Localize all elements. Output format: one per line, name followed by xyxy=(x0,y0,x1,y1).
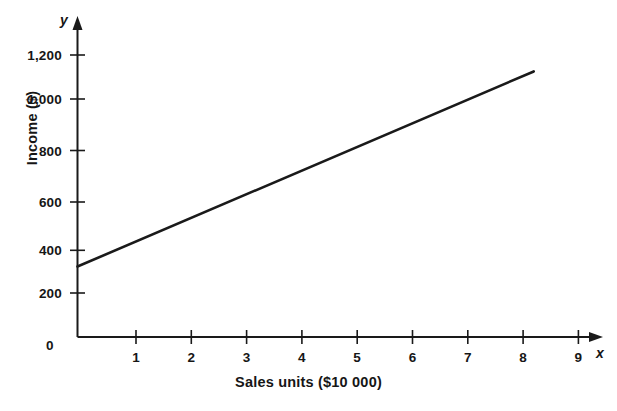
x-axis-arrow-icon xyxy=(589,332,603,342)
y-tick-label-400: 400 xyxy=(0,243,62,258)
x-tick-label-7: 7 xyxy=(464,350,472,365)
x-tick-label-2: 2 xyxy=(187,350,195,365)
y-tick-label-200: 200 xyxy=(0,286,62,301)
y-axis xyxy=(73,16,83,337)
x-tick-label-6: 6 xyxy=(409,350,417,365)
x-tick-label-9: 9 xyxy=(575,350,583,365)
x-axis xyxy=(78,332,604,342)
series-polyline xyxy=(78,71,534,266)
data-series-line xyxy=(78,71,534,266)
x-tick-label-3: 3 xyxy=(243,350,251,365)
origin-label: 0 xyxy=(46,338,54,353)
x-axis-title: Sales units ($10 000) xyxy=(0,374,617,390)
y-axis-arrow-icon xyxy=(73,16,83,30)
chart-figure: y x 0 1,200 1,000 800 600 400 200 1 2 3 … xyxy=(0,0,617,411)
y-axis-variable-label: y xyxy=(60,12,68,28)
y-axis-title: Income ($) xyxy=(24,58,40,198)
x-tick-label-1: 1 xyxy=(132,350,140,365)
x-tick-label-5: 5 xyxy=(353,350,361,365)
x-axis-variable-label: x xyxy=(596,345,604,361)
x-tick-label-8: 8 xyxy=(519,350,527,365)
x-tick-label-4: 4 xyxy=(298,350,306,365)
